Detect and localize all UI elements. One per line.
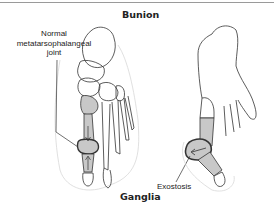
foot-illustration bbox=[0, 0, 274, 208]
normal-first-ray bbox=[77, 95, 98, 186]
leader-line-normal bbox=[56, 60, 78, 147]
label-exostosis: Exostosis bbox=[157, 182, 191, 192]
figure-title-ganglia: Ganglia bbox=[120, 191, 161, 202]
bunion-first-ray bbox=[186, 118, 226, 187]
leader-line-exostosis bbox=[176, 156, 190, 182]
